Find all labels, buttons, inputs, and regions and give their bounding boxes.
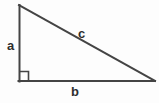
side-label-b: b	[71, 85, 79, 98]
triangle-hypotenuse-c-line	[19, 5, 155, 81]
side-label-c: c	[78, 27, 85, 40]
right-angle-marker-icon	[20, 72, 29, 82]
side-label-a: a	[7, 39, 14, 52]
right-triangle-diagram: a b c	[0, 0, 159, 103]
triangle-graphic	[0, 0, 159, 103]
